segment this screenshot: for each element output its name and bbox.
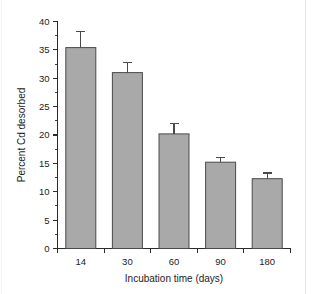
x-tick-label: 90	[215, 256, 226, 267]
bar	[66, 48, 96, 249]
y-tick-label: 30	[39, 73, 50, 84]
figure-canvas: 0510152025303540 14306090180 Percent Cd …	[0, 0, 313, 294]
x-tick-label: 30	[122, 256, 133, 267]
x-tick-label: 60	[169, 256, 180, 267]
x-axis-title: Incubation time (days)	[125, 273, 223, 284]
y-axis-title: Percent Cd desorbed	[16, 88, 27, 183]
y-tick-label: 15	[39, 158, 50, 169]
x-tick-label: 14	[76, 256, 87, 267]
bar	[206, 162, 236, 248]
x-tick-label: 180	[259, 256, 275, 267]
y-tick-label: 25	[39, 101, 50, 112]
bar	[112, 73, 142, 249]
bar	[159, 134, 189, 249]
bar	[252, 179, 282, 249]
y-tick-label: 35	[39, 44, 50, 55]
x-tick-group	[58, 249, 291, 254]
bars-group	[66, 48, 282, 249]
y-tick-label: 40	[39, 16, 50, 27]
y-tick-labels: 0510152025303540	[39, 16, 50, 254]
y-tick-label: 5	[44, 215, 49, 226]
y-tick-group	[53, 22, 58, 249]
bar-chart: 0510152025303540 14306090180 Percent Cd …	[0, 0, 313, 294]
x-tick-labels: 14306090180	[76, 256, 276, 267]
y-tick-label: 20	[39, 129, 50, 140]
y-tick-label: 0	[44, 243, 49, 254]
y-tick-label: 10	[39, 186, 50, 197]
